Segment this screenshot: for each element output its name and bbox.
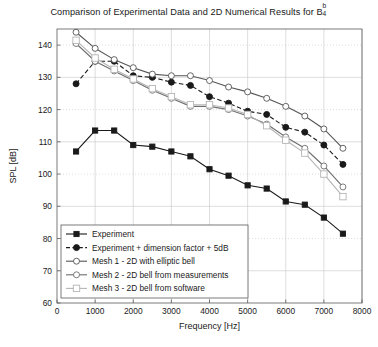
y-tick-label: 120 (38, 105, 52, 115)
data-point (73, 37, 79, 43)
data-point (321, 163, 327, 169)
y-tick-label: 110 (39, 137, 53, 147)
data-point (207, 94, 213, 100)
data-point (321, 126, 327, 132)
x-tick-label: 6000 (276, 306, 295, 316)
x-tick-label: 4000 (200, 306, 219, 316)
data-point (226, 173, 231, 178)
data-point (187, 82, 193, 88)
legend-label: Experiment + dimension factor + 5dB (92, 243, 229, 253)
legend-marker (74, 272, 80, 278)
data-point (321, 142, 327, 148)
y-tick-label: 80 (43, 234, 53, 244)
data-point (244, 111, 250, 117)
legend-label: Mesh 3 - 2D bell from software (92, 283, 205, 293)
data-point (111, 66, 117, 72)
y-tick-label: 130 (38, 72, 52, 82)
y-tick-label: 60 (43, 298, 53, 308)
y-axis-title: SPL [dB] (8, 148, 18, 183)
x-tick-label: 2000 (124, 306, 143, 316)
data-point (340, 184, 346, 190)
x-tick-label: 1000 (86, 306, 105, 316)
data-point (283, 124, 289, 130)
data-point (302, 129, 308, 135)
data-point (92, 45, 98, 51)
legend-marker (74, 258, 80, 264)
data-point (73, 29, 79, 35)
data-point (321, 215, 326, 220)
y-tick-label: 90 (43, 201, 53, 211)
x-tick-label: 7000 (315, 306, 334, 316)
data-point (149, 71, 155, 77)
data-point (169, 149, 174, 154)
y-tick-label: 140 (38, 40, 52, 50)
data-point (73, 149, 78, 154)
data-point (149, 85, 155, 91)
figure-container: Comparison of Experimental Data and 2D N… (0, 0, 378, 347)
data-point (321, 171, 327, 177)
data-point (207, 78, 213, 84)
legend-marker (74, 231, 79, 236)
data-point (187, 73, 193, 79)
data-point (73, 81, 79, 87)
data-point (168, 73, 174, 79)
legend-label: Experiment (92, 229, 135, 239)
x-axis-title: Frequency [Hz] (179, 321, 240, 331)
data-point (206, 102, 212, 108)
data-point (264, 186, 269, 191)
data-point (111, 57, 117, 63)
y-tick-label: 70 (43, 266, 53, 276)
legend-label: Mesh 2 - 2D bell from measurements (92, 270, 229, 280)
data-point (283, 199, 288, 204)
data-point (131, 142, 136, 147)
data-point (225, 105, 231, 111)
data-point (264, 111, 270, 117)
data-point (130, 76, 136, 82)
x-tick-label: 5000 (238, 306, 257, 316)
data-point (283, 103, 289, 109)
data-point (245, 89, 251, 95)
data-point (168, 79, 174, 85)
data-point (226, 84, 232, 90)
legend-marker (73, 285, 79, 291)
data-point (93, 128, 98, 133)
data-point (188, 154, 193, 159)
x-tick-label: 8000 (353, 306, 372, 316)
data-point (207, 167, 212, 172)
legend-label: Mesh 1 - 2D with elliptic bell (92, 256, 195, 266)
legend-marker (74, 245, 80, 251)
data-point (130, 65, 136, 71)
data-point (302, 150, 308, 156)
data-point (340, 193, 346, 199)
x-tick-label: 3000 (162, 306, 181, 316)
data-point (340, 231, 345, 236)
data-point (112, 128, 117, 133)
data-point (245, 183, 250, 188)
data-point (340, 161, 346, 167)
chart-legend: ExperimentExperiment + dimension factor … (61, 225, 248, 298)
data-point (302, 202, 307, 207)
data-point (187, 102, 193, 108)
data-point (302, 113, 308, 119)
data-point (92, 55, 98, 61)
x-tick-label: 0 (55, 306, 60, 316)
chart-plot: 0100020003000400050006000700080006070809… (0, 0, 378, 347)
data-point (283, 137, 289, 143)
data-point (168, 93, 174, 99)
data-point (150, 144, 155, 149)
data-point (340, 145, 346, 151)
y-tick-label: 100 (38, 169, 52, 179)
data-point (264, 95, 270, 101)
data-point (263, 123, 269, 129)
